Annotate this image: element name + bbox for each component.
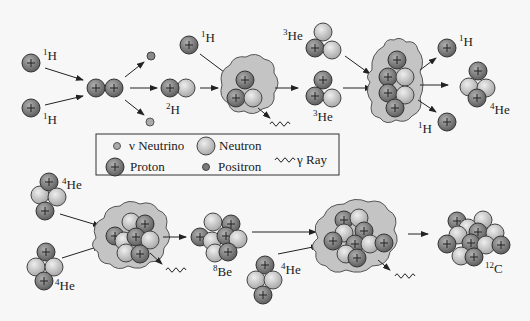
- label-he4-c: 4He: [281, 261, 301, 277]
- arrow: [45, 68, 83, 80]
- helium4-a: [31, 173, 66, 220]
- legend-neutron: Neutron: [219, 138, 262, 153]
- gamma-ray-icon: [395, 274, 415, 278]
- positron-particle: [147, 52, 155, 60]
- legend-positron: Positron: [218, 159, 262, 174]
- label-h1-c: 1H: [201, 29, 215, 45]
- positron-legend-icon: [203, 164, 210, 171]
- proton-h1-a: [22, 54, 40, 72]
- fusion-cloud-3: [92, 201, 169, 268]
- label-h1-a: 1H: [43, 47, 57, 63]
- label-h1-out-bot: 1H: [418, 120, 432, 136]
- label-he3-top: 3He: [283, 27, 303, 43]
- arrow: [125, 62, 144, 77]
- arrow: [60, 214, 100, 226]
- label-he4-b: 4He: [55, 277, 75, 293]
- label-he3-mid: 3He: [313, 108, 333, 124]
- label-h2: 2H: [166, 101, 180, 117]
- carbon12: [438, 211, 510, 266]
- arrow: [258, 108, 270, 118]
- gamma-ray-icon: [166, 268, 186, 272]
- beryllium8: [191, 213, 247, 262]
- fusion-cloud-4: [312, 199, 397, 272]
- label-c12: 12C: [485, 260, 503, 276]
- fusion-cloud-1: [221, 54, 278, 113]
- helium3-top: [306, 23, 341, 59]
- label-he4-product: 4He: [490, 101, 510, 117]
- legend-neutrino: ν Neutrino: [129, 138, 184, 153]
- label-h1-b: 1H: [43, 111, 57, 127]
- label-he4-a: 4He: [62, 176, 82, 192]
- legend: ν Neutrino Neutron γ Ray Proton Positron: [96, 134, 339, 176]
- proton-out-bot: [438, 113, 456, 131]
- helium3-mid: [306, 71, 341, 107]
- neutrino-legend-icon: [114, 143, 121, 150]
- arrow: [125, 100, 144, 115]
- proton-h1-b: [22, 99, 40, 117]
- arrow: [345, 56, 370, 74]
- neutrino-particle: [146, 118, 154, 126]
- arrow: [45, 96, 83, 105]
- proton-h1-c: [180, 36, 198, 54]
- fusion-cloud-2: [367, 38, 423, 122]
- gamma-ray-icon: [270, 122, 290, 126]
- neutron-legend-icon: [197, 137, 215, 155]
- deuteron: [161, 79, 195, 97]
- label-h1-out-top: 1H: [459, 33, 473, 49]
- helium4-c: [247, 256, 282, 304]
- proton-legend-icon: [106, 158, 124, 176]
- proton-out-top: [438, 39, 456, 57]
- legend-proton: Proton: [130, 159, 165, 174]
- fusion-diagram: 1H 1H 2H 1H 3He 3He 1H 1H 4He ν Neutri: [0, 0, 530, 321]
- label-be8: 8Be: [213, 263, 232, 279]
- diproton: [87, 79, 123, 97]
- legend-gamma: γ Ray: [296, 152, 327, 167]
- arrow: [278, 246, 318, 254]
